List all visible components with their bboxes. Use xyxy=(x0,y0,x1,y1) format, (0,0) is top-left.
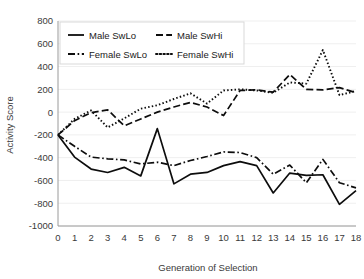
chart-figure: 8006004002000-200-400-600-800-1000 01234… xyxy=(0,0,364,279)
legend-label-female-swlo: Female SwLo xyxy=(89,49,147,60)
x-tick-label: 8 xyxy=(188,232,193,243)
x-tick-label: 6 xyxy=(155,232,160,243)
x-tick-label: 13 xyxy=(268,232,279,243)
y-tick-label: 400 xyxy=(37,61,53,72)
chart-legend: Male SwLoMale SwHiFemale SwLoFemale SwHi xyxy=(60,22,244,64)
activity-score-line-chart: 8006004002000-200-400-600-800-1000 01234… xyxy=(0,0,364,279)
x-axis-title: Generation of Selection xyxy=(158,262,257,273)
x-tick-label: 11 xyxy=(235,232,245,243)
y-tick-label: 600 xyxy=(37,38,53,49)
legend-label-male-swhi: Male SwHi xyxy=(177,30,222,41)
y-tick-label: -600 xyxy=(34,175,53,186)
x-tick-label: 3 xyxy=(105,232,110,243)
x-tick-label: 12 xyxy=(251,232,262,243)
x-tick-label: 17 xyxy=(334,232,345,243)
y-tick-label: 200 xyxy=(37,84,53,95)
x-tick-label: 4 xyxy=(122,232,127,243)
y-tick-label: -200 xyxy=(34,129,53,140)
x-tick-label: 10 xyxy=(218,232,229,243)
legend-label-male-swlo: Male SwLo xyxy=(89,30,136,41)
y-tick-label: -800 xyxy=(34,198,53,209)
x-tick-label: 7 xyxy=(171,232,176,243)
x-tick-label: 9 xyxy=(204,232,209,243)
x-tick-label: 15 xyxy=(301,232,312,243)
x-tick-label: 2 xyxy=(88,232,93,243)
x-tick-label: 5 xyxy=(138,232,143,243)
x-tick-label: 14 xyxy=(284,232,295,243)
y-tick-label: 800 xyxy=(37,15,53,26)
x-tick-label: 16 xyxy=(318,232,329,243)
y-tick-label: 0 xyxy=(48,107,53,118)
x-tick-label: 1 xyxy=(72,232,77,243)
y-tick-label: -400 xyxy=(34,152,53,163)
x-tick-label: 0 xyxy=(55,232,60,243)
x-tick-label: 18 xyxy=(351,232,362,243)
legend-label-female-swhi: Female SwHi xyxy=(177,49,234,60)
y-tick-label: -1000 xyxy=(29,220,53,231)
y-axis-title: Activity Score xyxy=(4,96,15,154)
